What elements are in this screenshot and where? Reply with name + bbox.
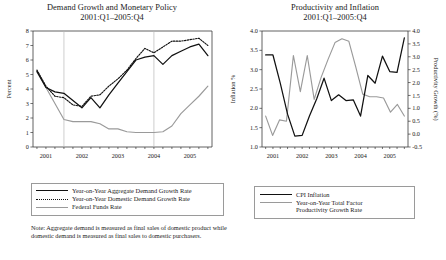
y-axis-tick-label: 8 <box>26 28 29 35</box>
y-axis-tick-label: 2.5 <box>250 86 258 93</box>
x-axis-tick-label: 2005 <box>384 152 396 159</box>
right-plot-frame <box>262 31 408 147</box>
y-axis-tick-label: 3.0 <box>250 66 258 73</box>
right-chart-legend: CPI Inflation Year-on-Year Total Factor … <box>254 186 415 219</box>
legend-label: Federal Funds Rate <box>72 203 122 211</box>
secondary-y-axis-tick-label: 4.0 <box>412 28 420 35</box>
legend-label: Year-on-Year Total Factor Productivity G… <box>296 199 363 214</box>
legend-swatch-solid-line-icon <box>36 187 68 194</box>
right-chart-title-line2: 2001:Q1–2005:Q4 <box>224 13 446 23</box>
secondary-y-axis-tick-label: 3.5 <box>412 40 420 47</box>
right-chart-title-line1: Productivity and Inflation <box>291 3 379 12</box>
secondary-y-axis-tick-label: 1.5 <box>412 92 420 99</box>
legend-item: Year-on-Year Domestic Demand Growth Rate <box>36 195 219 203</box>
chart-panel-demand-growth: Demand Growth and Monetary Policy 2001:Q… <box>0 0 224 215</box>
left-chart-title-line2: 2001:Q1–2005:Q4 <box>0 13 224 23</box>
y-axis-tick-label: 6 <box>26 57 29 64</box>
left-plot-area: 01234567820012002200320042005Percent <box>0 23 224 173</box>
legend-item: Federal Funds Rate <box>36 203 219 211</box>
legend-item: CPI Inflation <box>260 191 410 199</box>
legend-label: CPI Inflation <box>296 191 330 199</box>
legend-label-line2: Productivity Growth Rate <box>296 206 363 214</box>
legend-swatch-gray-line-icon <box>36 203 68 210</box>
x-axis-tick-label: 2003 <box>325 152 337 159</box>
right-chart-title: Productivity and Inflation 2001:Q1–2005:… <box>224 0 446 23</box>
x-axis-tick-label: 2001 <box>40 152 52 159</box>
secondary-y-axis-label: Productivity Growth (%) <box>432 58 440 121</box>
legend-label: Year-on-Year Domestic Demand Growth Rate <box>72 195 190 203</box>
legend-item: Year-on-Year Total Factor Productivity G… <box>260 199 410 214</box>
legend-swatch-solid-line-icon <box>260 191 292 198</box>
y-axis-tick-label: 1 <box>26 129 29 136</box>
legend-label-line1: CPI Inflation <box>296 191 330 199</box>
legend-label-line1: Year-on-Year Total Factor <box>296 199 363 207</box>
y-axis-tick-label: 4 <box>26 86 29 93</box>
secondary-y-axis-tick-label: 2.5 <box>412 66 420 73</box>
secondary-y-axis-tick-label: 3.0 <box>412 53 420 60</box>
x-axis-tick-label: 2005 <box>184 152 196 159</box>
left-chart-legend: Year-on-Year Aggregate Demand Growth Rat… <box>31 183 224 216</box>
figure-note: Note: Aggregate demand is measured as fi… <box>31 224 231 240</box>
x-axis-tick-label: 2004 <box>354 152 366 159</box>
x-axis-tick-label: 2001 <box>267 152 279 159</box>
y-axis-tick-label: 1.5 <box>250 124 258 131</box>
series-line-federal-funds-rate <box>37 71 208 133</box>
figure-two-panel-charts: Demand Growth and Monetary Policy 2001:Q… <box>0 0 446 260</box>
x-axis-tick-label: 2002 <box>296 152 308 159</box>
legend-swatch-dotted-line-icon <box>36 195 68 202</box>
x-axis-tick-label: 2002 <box>76 152 88 159</box>
y-axis-tick-label: 4.0 <box>250 28 258 35</box>
y-axis-tick-label: 1.0 <box>250 144 258 151</box>
right-chart-svg: 1.01.52.02.53.03.54.0-0.50.00.51.01.52.0… <box>224 23 446 173</box>
y-axis-label: Inflation % <box>229 74 236 103</box>
chart-panel-productivity-inflation: Productivity and Inflation 2001:Q1–2005:… <box>224 0 446 215</box>
legend-swatch-gray-line-icon <box>260 199 292 206</box>
y-axis-tick-label: 7 <box>26 42 29 49</box>
left-chart-title-line1: Demand Growth and Monetary Policy <box>47 3 177 12</box>
y-axis-label: Percent <box>5 80 12 99</box>
secondary-y-axis-tick-label: 0.5 <box>412 118 420 125</box>
x-axis-tick-label: 2003 <box>112 152 124 159</box>
secondary-y-axis-tick-label: 0.0 <box>412 131 420 138</box>
legend-label: Year-on-Year Aggregate Demand Growth Rat… <box>72 187 192 195</box>
left-chart-svg: 01234567820012002200320042005Percent <box>0 23 224 173</box>
series-line-domestic-demand-growth <box>37 39 208 107</box>
series-line-tfp-growth <box>266 39 405 136</box>
y-axis-tick-label: 3 <box>26 100 29 107</box>
secondary-y-axis-tick-label: -0.5 <box>412 144 422 151</box>
legend-item: Year-on-Year Aggregate Demand Growth Rat… <box>36 187 219 195</box>
y-axis-tick-label: 5 <box>26 71 29 78</box>
secondary-y-axis-tick-label: 2.0 <box>412 79 420 86</box>
x-axis-tick-label: 2004 <box>148 152 160 159</box>
secondary-y-axis-tick-label: 1.0 <box>412 105 420 112</box>
left-chart-title: Demand Growth and Monetary Policy 2001:Q… <box>0 0 224 23</box>
y-axis-tick-label: 3.5 <box>250 47 258 54</box>
series-line-aggregate-demand-growth <box>37 44 208 108</box>
y-axis-tick-label: 2 <box>26 115 29 122</box>
right-plot-area: 1.01.52.02.53.03.54.0-0.50.00.51.01.52.0… <box>224 23 446 173</box>
left-plot-frame <box>33 31 212 147</box>
y-axis-tick-label: 2.0 <box>250 105 258 112</box>
y-axis-tick-label: 0 <box>26 144 29 151</box>
